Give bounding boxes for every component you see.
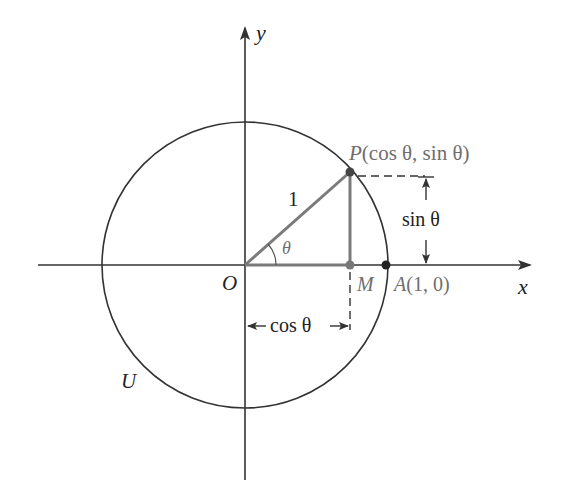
unit-circle-diagram: y x O U 1 θ P(cos θ, sin θ) M A(1, 0) si… bbox=[0, 0, 562, 493]
point-m-label: M bbox=[356, 273, 375, 295]
point-a-coords: (1, 0) bbox=[406, 273, 449, 296]
point-a-label: A(1, 0) bbox=[392, 273, 450, 296]
origin-label: O bbox=[222, 271, 237, 295]
point-p bbox=[346, 168, 355, 177]
radius-segment-op bbox=[245, 172, 350, 265]
cos-label: cos θ bbox=[270, 314, 311, 336]
radius-label: 1 bbox=[288, 187, 299, 211]
point-a-name: A bbox=[392, 273, 407, 295]
y-axis-label: y bbox=[254, 20, 266, 45]
point-p-name: P bbox=[348, 141, 362, 165]
sin-label: sin θ bbox=[402, 208, 440, 230]
point-m bbox=[346, 261, 355, 270]
point-p-coords: (cos θ, sin θ) bbox=[362, 141, 470, 165]
angle-label: θ bbox=[282, 238, 291, 258]
angle-arc bbox=[268, 244, 276, 265]
x-axis-label: x bbox=[517, 274, 528, 299]
circle-label: U bbox=[121, 369, 138, 393]
point-a bbox=[382, 261, 391, 270]
point-p-label: P(cos θ, sin θ) bbox=[348, 141, 469, 165]
